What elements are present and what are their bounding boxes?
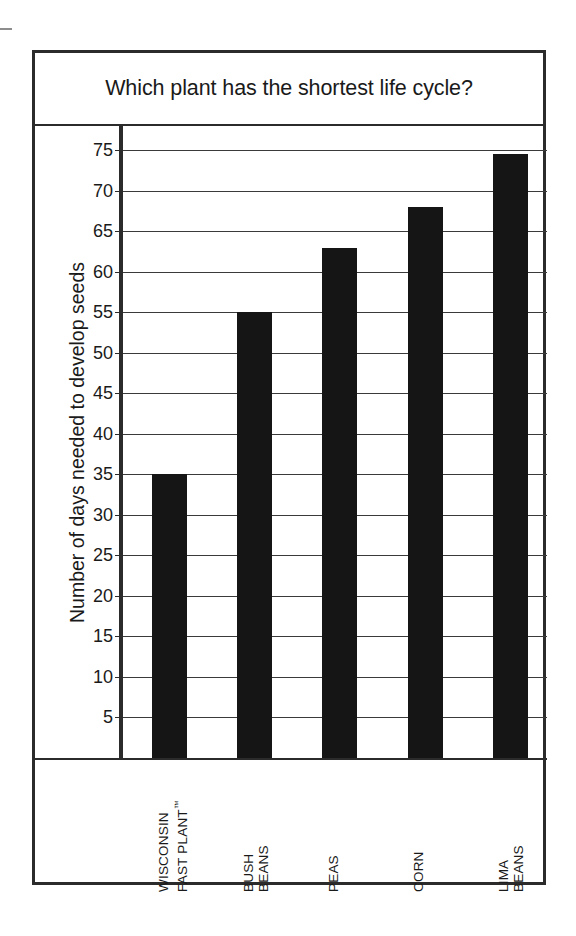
trademark-icon: ™ xyxy=(173,800,183,809)
plot-inner: 51015202530354045505560657075 xyxy=(121,126,547,758)
y-axis-tick xyxy=(115,555,123,556)
gridline xyxy=(121,150,547,151)
y-axis-tick xyxy=(115,515,123,516)
bar xyxy=(322,248,357,758)
y-axis-tick-label: 50 xyxy=(73,342,113,363)
y-axis-tick-label: 15 xyxy=(73,626,113,647)
x-axis-category-line: BEANS xyxy=(256,845,271,892)
x-axis-category-line: FAST PLANT™ xyxy=(171,800,190,892)
bar xyxy=(237,312,272,758)
x-axis-category-label: CORN xyxy=(411,772,439,892)
chart-title: Which plant has the shortest life cycle? xyxy=(105,76,473,101)
y-axis-tick-label: 20 xyxy=(73,585,113,606)
y-axis-tick-label: 65 xyxy=(73,221,113,242)
x-axis-category-line: LIMA xyxy=(496,860,511,892)
y-axis-tick xyxy=(115,717,123,718)
x-axis-category-line: WISCONSIN xyxy=(156,812,171,892)
x-axis-category-label: PEAS xyxy=(326,772,354,892)
plot-area: 51015202530354045505560657075 xyxy=(121,126,547,758)
y-axis-tick-label: 45 xyxy=(73,383,113,404)
x-axis-category-line: CORN xyxy=(411,851,426,892)
y-axis-tick-label: 40 xyxy=(73,423,113,444)
y-axis-tick xyxy=(115,231,123,232)
y-axis-tick-label: 30 xyxy=(73,504,113,525)
y-axis-tick xyxy=(115,393,123,394)
y-axis-tick xyxy=(115,353,123,354)
x-axis-category-line: BEANS xyxy=(511,845,526,892)
y-axis-tick-label: 5 xyxy=(73,707,113,728)
bar xyxy=(493,154,528,758)
y-axis-tick-label: 70 xyxy=(73,180,113,201)
y-axis-tick xyxy=(115,596,123,597)
scan-artifact xyxy=(0,28,12,30)
y-axis-tick xyxy=(115,434,123,435)
x-axis-category-label: LIMABEANS xyxy=(496,772,524,892)
y-axis-tick-label: 25 xyxy=(73,545,113,566)
x-axis-category-line: PEAS xyxy=(326,855,341,892)
y-axis-tick xyxy=(115,474,123,475)
y-axis-tick xyxy=(115,150,123,151)
y-axis-tick xyxy=(115,191,123,192)
bar xyxy=(408,207,443,758)
y-axis-tick-label: 75 xyxy=(73,140,113,161)
chart-title-band: Which plant has the shortest life cycle? xyxy=(35,53,543,126)
y-axis-tick xyxy=(115,272,123,273)
y-axis-tick xyxy=(115,312,123,313)
gridline xyxy=(121,231,547,232)
chart-figure: Which plant has the shortest life cycle?… xyxy=(32,50,546,885)
y-axis-tick-label: 55 xyxy=(73,302,113,323)
y-axis-tick-label: 10 xyxy=(73,666,113,687)
gridline xyxy=(121,191,547,192)
y-axis-tick-label: 60 xyxy=(73,261,113,282)
bar xyxy=(152,474,187,758)
chart-body: Number of days needed to develop seeds 5… xyxy=(35,126,543,888)
x-axis-category-label: BUSHBEANS xyxy=(241,772,269,892)
y-axis-tick xyxy=(115,677,123,678)
y-axis-tick-label: 35 xyxy=(73,464,113,485)
category-label-band: WISCONSINFAST PLANT™BUSHBEANSPEASCORNLIM… xyxy=(35,760,543,888)
x-axis-category-label: WISCONSINFAST PLANT™ xyxy=(156,772,184,892)
y-axis-tick xyxy=(115,636,123,637)
x-axis-category-line: BUSH xyxy=(241,854,256,892)
